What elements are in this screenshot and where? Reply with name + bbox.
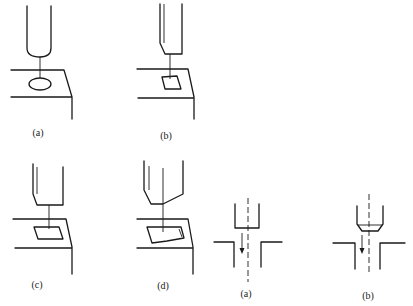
label-section-a: (a) — [240, 288, 251, 300]
label-section-b: (b) — [362, 290, 374, 302]
workpiece-a — [11, 70, 72, 119]
panel-a: (a) — [11, 6, 72, 139]
section-a: (a) — [214, 198, 282, 300]
electrode-b — [160, 4, 182, 54]
panel-c: (c) — [13, 164, 72, 291]
panel-d: (d) — [137, 161, 193, 292]
section-a-workpiece-left — [214, 242, 234, 267]
section-b-electrode — [357, 206, 383, 231]
hole-square — [162, 76, 181, 89]
feed-arrow-icon — [240, 248, 245, 254]
label-d: (d) — [157, 280, 169, 292]
electrode-d — [144, 161, 183, 204]
section-b: (b) — [333, 194, 405, 302]
panel-b: (b) — [137, 4, 194, 142]
hole-parallelogram — [34, 227, 63, 239]
hole-round — [29, 78, 51, 90]
section-a-electrode — [235, 204, 259, 228]
section-a-workpiece-right — [261, 242, 282, 267]
section-b-workpiece-left — [333, 243, 355, 269]
electrode-a — [27, 6, 51, 57]
section-b-workpiece-right — [380, 243, 405, 269]
hole-pentagon — [147, 227, 184, 243]
label-c: (c) — [31, 279, 42, 291]
feed-arrow-icon — [360, 248, 365, 254]
electrode-c — [33, 164, 63, 205]
label-b: (b) — [160, 130, 172, 142]
diagram-canvas: (a) (b) (c) (d) (a) — [0, 0, 413, 306]
label-a: (a) — [32, 127, 43, 139]
